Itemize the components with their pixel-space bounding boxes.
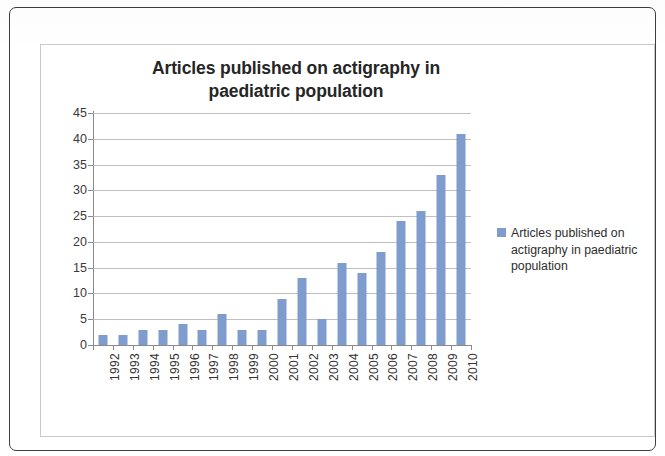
chart-title-line-2: paediatric population [81,80,511,103]
y-axis-label-10: 10 [61,287,87,299]
bar-1998[interactable] [218,314,227,345]
y-axis-label-40: 40 [61,133,87,145]
x-axis-label-2000: 2000 [267,353,281,409]
x-axis-label-1992: 1992 [108,353,122,409]
bar-2004[interactable] [337,263,346,345]
x-axis-label-1996: 1996 [188,353,202,409]
bar-slot-1998 [212,113,232,345]
x-axis-label-1993: 1993 [128,353,142,409]
x-tick-mark-11 [312,345,313,350]
bar-1997[interactable] [198,330,207,345]
y-axis-label-15: 15 [61,262,87,274]
chart-legend: Articles published on actigraphy in paed… [497,225,649,275]
bar-2000[interactable] [258,330,267,345]
bar-slot-2009 [431,113,451,345]
bar-slot-2007 [391,113,411,345]
bar-slot-2005 [352,113,372,345]
bar-slot-1995 [153,113,173,345]
bar-slot-2008 [411,113,431,345]
x-axis-label-2004: 2004 [347,353,361,409]
x-tick-mark-2 [133,345,134,350]
bar-slot-1997 [192,113,212,345]
bar-slot-2010 [451,113,471,345]
bar-slot-1992 [93,113,113,345]
x-tick-mark-16 [411,345,412,350]
bar-slot-1993 [113,113,133,345]
bar-slot-2003 [312,113,332,345]
x-axis-label-2007: 2007 [406,353,420,409]
x-tick-mark-10 [292,345,293,350]
x-axis-label-1998: 1998 [227,353,241,409]
x-axis-label-2008: 2008 [426,353,440,409]
figure-outer-frame: Articles published on actigraphy in paed… [9,7,656,451]
x-tick-mark-18 [451,345,452,350]
chart-panel: Articles published on actigraphy in paed… [40,44,655,437]
x-axis-label-1999: 1999 [247,353,261,409]
x-axis-label-2006: 2006 [386,353,400,409]
x-tick-mark-8 [252,345,253,350]
y-axis-label-35: 35 [61,159,87,171]
x-tick-mark-13 [352,345,353,350]
x-axis-label-2009: 2009 [446,353,460,409]
x-axis-label-1995: 1995 [168,353,182,409]
bar-1999[interactable] [238,330,247,345]
x-axis-label-2003: 2003 [327,353,341,409]
x-axis-label-2002: 2002 [307,353,321,409]
bar-2005[interactable] [357,273,366,345]
bar-slot-2004 [332,113,352,345]
x-tick-mark-19 [471,345,472,350]
bar-slot-2002 [292,113,312,345]
legend-entry-label: Articles published on actigraphy in paed… [511,225,649,275]
x-axis-label-2005: 2005 [367,353,381,409]
x-axis-label-1997: 1997 [207,353,221,409]
x-tick-mark-5 [192,345,193,350]
x-tick-mark-12 [332,345,333,350]
x-tick-mark-14 [372,345,373,350]
x-tick-mark-17 [431,345,432,350]
bar-slot-1996 [173,113,193,345]
y-axis-tick-labels: 051015202530354045 [55,113,87,345]
x-tick-mark-1 [113,345,114,350]
x-tick-mark-9 [272,345,273,350]
x-tick-mark-6 [212,345,213,350]
bar-slot-2006 [372,113,392,345]
bar-1996[interactable] [178,324,187,345]
bar-1993[interactable] [118,335,127,345]
bar-2002[interactable] [297,278,306,345]
y-axis-label-20: 20 [61,236,87,248]
x-axis-label-2001: 2001 [287,353,301,409]
x-tick-mark-7 [232,345,233,350]
bar-2009[interactable] [437,175,446,345]
y-axis-label-5: 5 [61,313,87,325]
x-tick-mark-15 [391,345,392,350]
bar-2006[interactable] [377,252,386,345]
y-axis-label-30: 30 [61,184,87,196]
bar-slot-1994 [133,113,153,345]
y-axis-label-25: 25 [61,210,87,222]
plot-area [93,113,471,345]
bar-1994[interactable] [138,330,147,345]
chart-title: Articles published on actigraphy in paed… [81,57,511,103]
bar-2007[interactable] [397,221,406,345]
x-axis-label-2010: 2010 [466,353,480,409]
chart-title-line-1: Articles published on actigraphy in [81,57,511,80]
legend-entry: Articles published on actigraphy in paed… [497,225,649,275]
bar-2003[interactable] [317,319,326,345]
bar-2008[interactable] [417,211,426,345]
y-axis-label-45: 45 [61,107,87,119]
legend-color-swatch-icon [497,228,506,237]
bar-2010[interactable] [457,134,466,345]
x-axis-label-1994: 1994 [148,353,162,409]
bar-slot-2000 [252,113,272,345]
x-tick-mark-4 [173,345,174,350]
x-tick-mark-3 [153,345,154,350]
bar-slot-2001 [272,113,292,345]
x-axis-tick-labels: 1992199319941995199619971998199920002001… [93,353,471,409]
x-axis-tick-marks [93,345,471,351]
bar-1992[interactable] [98,335,107,345]
x-tick-mark-0 [93,345,94,350]
bar-2001[interactable] [277,299,286,345]
y-axis-label-0: 0 [61,339,87,351]
bar-slot-1999 [232,113,252,345]
bar-1995[interactable] [158,330,167,345]
